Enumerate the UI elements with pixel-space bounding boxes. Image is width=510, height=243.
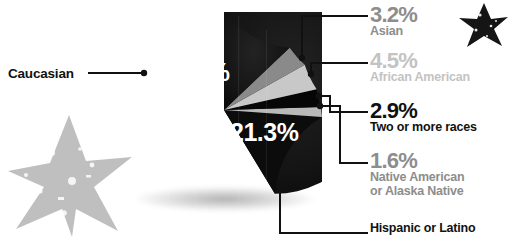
callout-native-american-name-line2: or Alaska Native bbox=[370, 185, 465, 199]
callout-two-or-more-races: 2.9% Two or more races bbox=[370, 100, 477, 135]
pie-label-caucasian-pct: 68.7% bbox=[161, 58, 229, 87]
pie-label-hispanic-pct: 21.3% bbox=[230, 118, 298, 147]
cropped-title-remnant bbox=[120, 0, 400, 8]
callout-native-american-pct: 1.6% bbox=[370, 150, 465, 171]
callout-native-american-name-line1: Native American bbox=[370, 171, 465, 185]
callout-hispanic-or-latino: Hispanic or Latino bbox=[370, 222, 475, 236]
star-icon bbox=[458, 2, 510, 48]
callout-hispanic-or-latino-name: Hispanic or Latino bbox=[370, 222, 475, 236]
callout-african-american-name: African American bbox=[370, 71, 470, 85]
callout-two-or-more-races-pct: 2.9% bbox=[370, 100, 477, 121]
callout-african-american-pct: 4.5% bbox=[370, 50, 470, 71]
callout-asian-pct: 3.2% bbox=[370, 4, 417, 25]
pie-chart bbox=[126, 12, 322, 208]
infographic-canvas: 68.7% 21.3% Caucasian 3.2% A bbox=[0, 0, 510, 243]
callout-native-american: 1.6% Native American or Alaska Native bbox=[370, 150, 465, 198]
callout-asian: 3.2% Asian bbox=[370, 4, 417, 39]
callout-two-or-more-races-name: Two or more races bbox=[370, 121, 477, 135]
callout-caucasian-label: Caucasian bbox=[8, 66, 74, 81]
callout-african-american: 4.5% African American bbox=[370, 50, 470, 85]
star-icon bbox=[6, 113, 134, 239]
callout-asian-name: Asian bbox=[370, 25, 417, 39]
